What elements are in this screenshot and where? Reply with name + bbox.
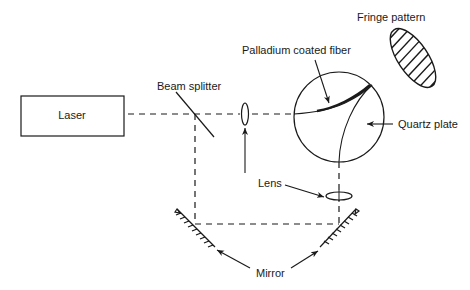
mirror-annotation: Mirror	[217, 250, 318, 279]
palladium-annotation: Palladium coated fiber	[242, 44, 351, 103]
lens-label: Lens	[258, 177, 282, 189]
mirror-right	[320, 209, 359, 247]
lens-lower	[326, 190, 352, 202]
quartz-annotation: Quartz plate	[367, 118, 458, 130]
beam-splitter: Beam splitter	[157, 80, 222, 137]
laser-box: Laser	[21, 96, 124, 136]
beam-paths	[128, 114, 339, 224]
quartz-plate	[294, 72, 384, 162]
fringe-pattern: Fringe pattern	[357, 0, 467, 118]
laser-label: Laser	[58, 109, 86, 121]
beam-splitter-label: Beam splitter	[157, 80, 222, 92]
mirror-label: Mirror	[256, 267, 285, 279]
interferometer-diagram: Laser Beam splitter Lens Pal	[0, 0, 470, 290]
palladium-label: Palladium coated fiber	[242, 44, 351, 56]
lens-upper	[242, 103, 249, 125]
lens-annotation: Lens	[245, 128, 324, 197]
quartz-label: Quartz plate	[398, 118, 458, 130]
fringe-label: Fringe pattern	[357, 11, 425, 23]
